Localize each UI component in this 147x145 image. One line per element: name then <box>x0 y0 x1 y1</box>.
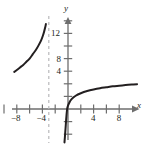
y-axis-label: y <box>64 4 68 13</box>
curve-left-branch <box>14 24 46 72</box>
x-tick-label-neg4: −4 <box>37 114 47 123</box>
graph-figure: x y −8 −4 4 8 4 8 12 <box>0 0 147 145</box>
curve-right-branch <box>64 84 137 142</box>
y-tick-label-8: 8 <box>57 55 62 64</box>
coordinate-plot <box>0 0 147 145</box>
x-axis-label: x <box>137 101 141 110</box>
y-tick-label-4: 4 <box>57 67 62 76</box>
x-tick-label-pos8: 8 <box>117 114 122 123</box>
y-tick-label-12: 12 <box>51 29 60 38</box>
x-tick-label-pos4: 4 <box>91 114 96 123</box>
x-tick-label-neg8: −8 <box>11 114 21 123</box>
